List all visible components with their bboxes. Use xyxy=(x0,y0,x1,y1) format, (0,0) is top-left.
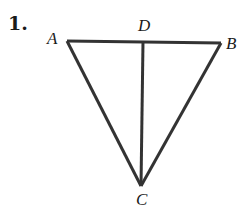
problem-number: 1. xyxy=(8,12,28,34)
label-A: A xyxy=(46,29,58,48)
geometry-figure: 1. A D B C xyxy=(0,0,246,208)
segment-BC xyxy=(141,43,221,186)
label-B: B xyxy=(226,34,237,53)
segment-AC xyxy=(67,41,141,186)
label-D: D xyxy=(137,16,151,35)
segment-CD xyxy=(141,42,143,186)
label-C: C xyxy=(136,190,148,208)
